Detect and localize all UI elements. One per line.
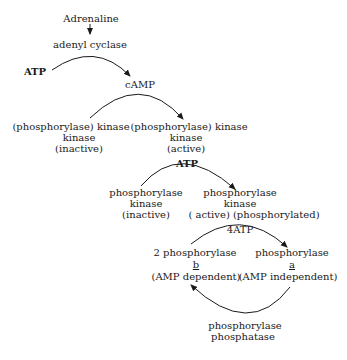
adenyl-cyclase-label: adenyl cyclase xyxy=(53,39,127,50)
atp-cofactor-label: ATP xyxy=(176,158,198,169)
phosphorylase-a-to-b-arrow xyxy=(191,285,290,313)
arrows-layer xyxy=(0,0,347,360)
4atp-label: 4ATP xyxy=(227,224,253,235)
atp-label: ATP xyxy=(24,66,46,77)
adrenaline-label: Adrenaline xyxy=(63,13,118,24)
atp-to-camp-arrow xyxy=(52,56,130,76)
camp-label: cAMP xyxy=(125,79,155,90)
kinase-kinase-activation-arrow xyxy=(90,94,183,119)
